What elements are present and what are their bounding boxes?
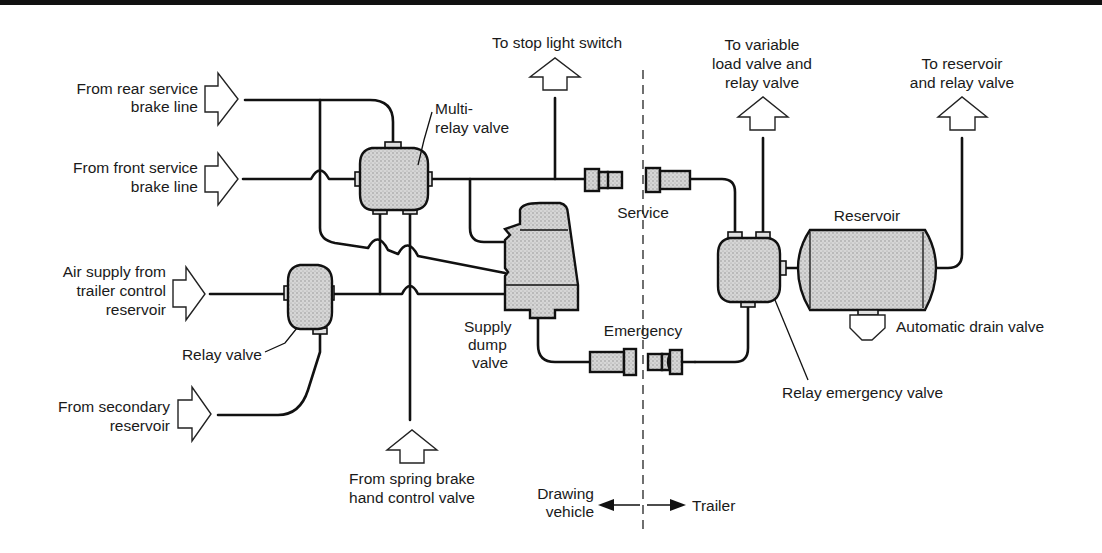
label-front-service-1: From front service	[73, 159, 198, 176]
label-relay-emergency: Relay emergency valve	[782, 384, 943, 401]
label-reservoir: Reservoir	[834, 207, 900, 224]
label-trailer: Trailer	[692, 497, 735, 514]
service-coupling[interactable]	[585, 168, 690, 192]
label-rear-service-1: From rear service	[77, 80, 198, 97]
label-reservoir-relay-1: To reservoir	[922, 55, 1003, 72]
label-secondary-2: reservoir	[110, 417, 170, 434]
label-variable-load-3: relay valve	[725, 74, 799, 91]
brake-diagram: From rear service brake line From front …	[0, 0, 1102, 553]
label-relay-valve: Relay valve	[182, 346, 262, 363]
label-multi-relay-1: Multi-	[435, 100, 473, 117]
output-arrow-reservoir-relay	[938, 97, 987, 130]
output-arrow-stop-light	[530, 58, 580, 90]
side-arrows	[598, 499, 686, 511]
label-reservoir-relay-2: and relay valve	[910, 74, 1014, 91]
label-drain-valve: Automatic drain valve	[896, 318, 1044, 335]
label-supply-dump-1: Supply	[464, 318, 512, 335]
label-rear-service-2: brake line	[131, 98, 198, 115]
label-secondary-1: From secondary	[58, 398, 170, 415]
label-front-service-2: brake line	[131, 178, 198, 195]
label-supply-dump-3: valve	[472, 354, 508, 371]
label-variable-load-1: To variable	[725, 36, 800, 53]
label-drawing-vehicle-2: vehicle	[546, 503, 594, 520]
label-multi-relay-2: relay valve	[435, 119, 509, 136]
drain-valve	[850, 315, 885, 340]
input-arrow-front-service	[205, 153, 238, 205]
input-arrow-air-supply	[173, 267, 205, 320]
input-arrow-spring-brake	[387, 430, 437, 463]
label-spring-brake-1: From spring brake	[349, 470, 475, 487]
relay-emergency-valve	[718, 232, 808, 380]
label-air-supply-2: trailer control	[76, 282, 166, 299]
label-air-supply-3: reservoir	[106, 301, 166, 318]
label-spring-brake-2: hand control valve	[349, 489, 475, 506]
output-arrow-variable-load	[738, 97, 788, 130]
label-stop-light: To stop light switch	[492, 34, 622, 51]
label-supply-dump-2: dump	[468, 336, 507, 353]
label-variable-load-2: load valve and	[712, 55, 812, 72]
label-service: Service	[617, 204, 669, 221]
label-emergency: Emergency	[604, 322, 683, 339]
label-air-supply-1: Air supply from	[63, 263, 166, 280]
supply-dump-valve	[505, 203, 578, 318]
relay-valve	[265, 265, 334, 352]
label-drawing-vehicle-1: Drawing	[537, 485, 594, 502]
input-arrow-rear-service	[205, 73, 238, 125]
input-arrow-secondary	[178, 387, 211, 441]
